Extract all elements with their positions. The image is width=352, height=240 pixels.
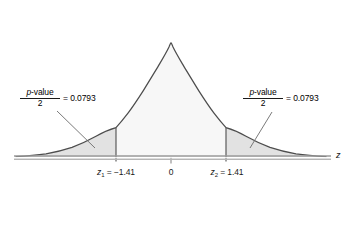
tick-label-z1-value: = −1.41 [105, 167, 135, 177]
tick-label-z2: z2 = 1.41 [211, 167, 244, 177]
right-fraction-denominator: 2 [259, 99, 268, 109]
right-fraction-numerator: p-value [247, 88, 278, 98]
right-p-value-result: = 0.0793 [286, 93, 319, 103]
left-tail-region [16, 128, 116, 157]
right-leader-line [250, 112, 272, 148]
right-tail-region [226, 128, 326, 157]
right-p-value-annotation: p-value 2 = 0.0793 [243, 88, 319, 108]
left-fraction-denominator: 2 [36, 99, 45, 109]
tick-label-zero: 0 [169, 167, 174, 177]
tick-label-z2-sub: 2 [215, 172, 218, 178]
tick-label-z1: z1 = −1.41 [97, 167, 135, 177]
tick-label-z1-sub: 1 [101, 172, 104, 178]
right-fraction: p-value 2 [243, 88, 283, 108]
left-leader-line [57, 111, 95, 148]
x-axis-label: z [336, 150, 341, 160]
left-p-value-annotation: p-value 2 = 0.0793 [20, 88, 96, 108]
center-body-region [116, 45, 226, 157]
left-fraction-numerator: p-value [24, 88, 55, 98]
left-fraction: p-value 2 [20, 88, 60, 108]
tick-label-z2-value: = 1.41 [218, 167, 244, 177]
left-p-value-result: = 0.0793 [63, 93, 96, 103]
